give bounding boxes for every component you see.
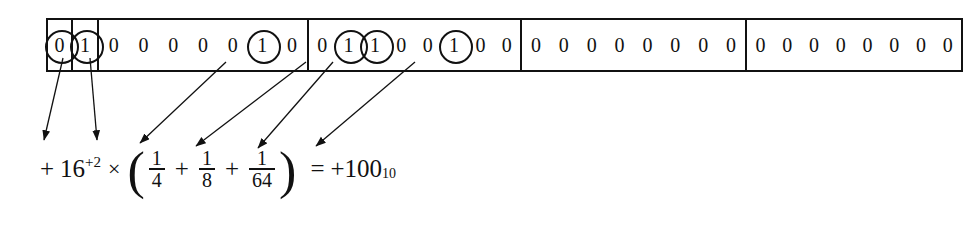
bit-value: 0 [670,34,680,56]
plus-sign-1: + [175,155,189,183]
bit-cell: 0 [415,30,441,60]
formula-sign: + [40,155,54,183]
bit-cell: 0 [854,30,880,60]
bit-value: 0 [559,34,569,56]
bit-cell: 0 [279,30,305,60]
bit-cell: 0 [101,30,127,60]
bit-cell: 0 [160,30,186,60]
result-radix-subscript: 10 [382,166,396,182]
bit-value: 0 [782,34,792,56]
equals-sign: = [310,155,324,183]
bit-value: 0 [109,34,119,56]
bit-value: 1 [344,34,354,56]
bit-cell: 0 [131,30,157,60]
fraction-denominator: 64 [249,168,275,190]
value-formula: + 16+2 × ( 1 4 + 1 8 + 1 64 ) = +10010 [34,148,396,190]
bit-value: 0 [916,34,926,56]
bit-cell: 0 [579,30,605,60]
bit-value: 0 [475,34,485,56]
bit-value: 0 [889,34,899,56]
bit-group-mantissa-byte-3: 0 0 0 0 0 0 0 0 [745,18,963,72]
bit-cell: 1 [441,30,467,60]
arrow-mantissa-bit-to-one-sixtyfourth [316,62,415,146]
bit-value: 0 [726,34,736,56]
bit-value: 0 [862,34,872,56]
bit-group-mantissa-byte-2: 0 0 0 0 0 0 0 0 [520,18,747,72]
formula-exponent: +2 [85,154,101,171]
bit-value: 0 [502,34,512,56]
fraction-numerator: 1 [199,148,215,168]
bit-cell: 0 [220,30,246,60]
bit-value: 0 [396,34,406,56]
bit-group-sign-bit: 0 [46,18,73,72]
fraction-numerator: 1 [254,148,270,168]
bit-cell: 0 [523,30,549,60]
bit-value: 0 [139,34,149,56]
bit-cell: 0 [747,30,773,60]
result-value: 100 [345,155,383,183]
bit-cell: 1 [336,30,362,60]
fraction-one-fourth: 1 4 [149,148,165,190]
bit-cell: 0 [881,30,907,60]
fraction-denominator: 4 [149,168,165,190]
bit-cell: 0 [690,30,716,60]
bit-value: 0 [168,34,178,56]
bit-value: 0 [809,34,819,56]
bit-group-exponent-field: 0 0 0 0 0 1 0 [97,18,309,72]
bit-value: 0 [642,34,652,56]
arrow-exponent-bit-to-base [140,62,226,143]
bit-cell: 0 [388,30,414,60]
bit-cell: 0 [607,30,633,60]
bit-value: 0 [228,34,238,56]
bit-value: 0 [836,34,846,56]
bit-cell: 0 [662,30,688,60]
bit-value: 0 [615,34,625,56]
bit-cell: 0 [908,30,934,60]
multiplication-sign: × [108,156,120,182]
bit-cell: 0 [774,30,800,60]
bit-value: 0 [755,34,765,56]
bit-value: 0 [698,34,708,56]
bit-cell: 0 [935,30,961,60]
bit-cell: 0 [309,30,335,60]
bit-value: 0 [317,34,327,56]
bit-value: 0 [531,34,541,56]
result-sign: + [330,155,344,183]
bit-field: 0 1 0 0 0 0 0 1 0 0 1 1 0 0 1 0 0 0 0 0 [46,18,961,72]
bit-value: 0 [587,34,597,56]
arrow-mantissa-bit-to-one-eighth [258,62,333,148]
fraction-one-eighth: 1 8 [199,148,215,190]
fraction-one-sixtyfourth: 1 64 [249,148,275,190]
bit-cell: 1 [249,30,275,60]
bit-cell: 0 [494,30,520,60]
bit-value: 1 [370,34,380,56]
bit-cell: 1 [73,30,97,60]
fraction-numerator: 1 [149,148,165,168]
bit-value: 0 [423,34,433,56]
bit-group-mantissa-byte-1: 0 1 1 0 0 1 0 0 [307,18,522,72]
bit-cell: 1 [362,30,388,60]
fraction-denominator: 8 [199,168,215,190]
bit-value: 1 [257,34,267,56]
arrow-mantissa-bit-to-one-fourth [196,62,306,146]
bit-value: 1 [80,34,90,56]
formula-base: 16 [60,155,85,183]
plus-sign-2: + [225,155,239,183]
bit-value: 0 [287,34,297,56]
bit-cell: 0 [828,30,854,60]
bit-cell: 0 [551,30,577,60]
bit-group-exponent-sign-bit: 1 [71,18,99,72]
bit-value: 0 [943,34,953,56]
bit-value: 1 [449,34,459,56]
bit-value: 0 [198,34,208,56]
bit-cell: 0 [718,30,744,60]
bit-cell: 0 [801,30,827,60]
bit-cell: 0 [190,30,216,60]
bit-cell: 0 [48,30,71,60]
bit-cell: 0 [634,30,660,60]
bit-cell: 0 [467,30,493,60]
bit-value: 0 [55,34,65,56]
